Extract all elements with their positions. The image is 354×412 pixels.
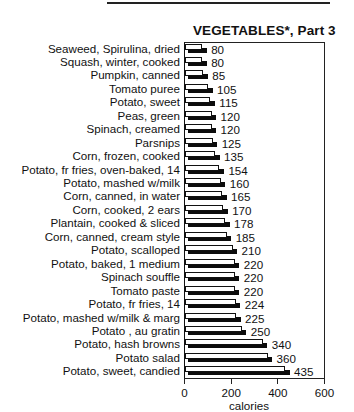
top-rule-divider <box>107 2 330 4</box>
bar <box>185 165 220 171</box>
category-label: Squash, winter, cooked <box>60 55 180 68</box>
value-label: 154 <box>228 164 247 177</box>
value-label: 210 <box>242 244 261 257</box>
category-label: Potato , au gratin <box>92 324 180 337</box>
x-tick <box>184 378 185 384</box>
value-label: 224 <box>245 298 264 311</box>
bar <box>185 111 212 117</box>
category-label: Parsnips <box>135 136 180 149</box>
category-label: Potato, sweet <box>110 95 180 108</box>
bar <box>185 245 233 251</box>
category-label: Potato, fr fries, oven-baked, 14 <box>21 163 180 176</box>
bar <box>185 218 226 224</box>
bar <box>185 191 223 197</box>
x-tick-label: 600 <box>315 386 334 399</box>
bar <box>185 232 227 238</box>
category-label: Potato, scalloped <box>91 243 180 256</box>
value-label: 178 <box>234 217 253 230</box>
category-label: Spinach, creamed <box>87 122 180 135</box>
category-label: Peas, green <box>117 109 180 122</box>
value-label: 125 <box>222 137 241 150</box>
x-tick <box>324 378 325 384</box>
value-label: 120 <box>221 110 240 123</box>
category-label: Potato, hash browns <box>74 337 180 350</box>
category-label: Tomato puree <box>109 82 180 95</box>
chart-title: VEGETABLES*, Part 3 <box>193 23 336 38</box>
x-axis-label: calories <box>229 399 269 412</box>
bar <box>185 84 209 90</box>
bar <box>185 151 216 157</box>
value-label: 185 <box>236 231 255 244</box>
category-label: Spinach souffle <box>101 270 180 283</box>
value-label: 340 <box>272 338 291 351</box>
value-label: 220 <box>244 258 263 271</box>
value-label: 165 <box>231 190 250 203</box>
bar <box>185 353 268 359</box>
bar <box>185 124 212 130</box>
category-label: Tomato paste <box>110 284 180 297</box>
x-tick <box>231 378 232 384</box>
category-label: Corn, canned, in water <box>63 189 180 202</box>
category-label: Corn, cooked, 2 ears <box>72 203 180 216</box>
category-label: Seaweed, Spirulina, dried <box>48 42 180 55</box>
bar <box>185 299 236 305</box>
x-tick <box>277 378 278 384</box>
bar <box>185 178 221 184</box>
category-label: Potato, baked, 1 medium <box>51 257 180 270</box>
value-label: 170 <box>232 204 251 217</box>
bar <box>185 70 204 76</box>
value-label: 435 <box>294 365 313 378</box>
category-label: Potato salad <box>116 351 180 364</box>
value-label: 160 <box>230 177 249 190</box>
category-label: Corn, canned, cream style <box>45 230 180 243</box>
bar <box>185 205 224 211</box>
bar <box>185 97 211 103</box>
bar <box>185 326 242 332</box>
bar <box>185 44 203 50</box>
value-label: 360 <box>277 352 296 365</box>
value-label: 80 <box>211 43 224 56</box>
category-label: Corn, frozen, cooked <box>72 149 180 162</box>
bar <box>185 138 213 144</box>
category-label: Potato, mashed w/milk <box>63 176 180 189</box>
category-label: Potato, sweet, candied <box>63 364 180 377</box>
value-label: 250 <box>251 325 270 338</box>
x-tick-label: 200 <box>221 386 240 399</box>
value-label: 220 <box>244 271 263 284</box>
bar <box>185 57 203 63</box>
bar <box>185 339 263 345</box>
value-label: 80 <box>211 56 224 69</box>
category-label: Potato, mashed w/milk & marg <box>23 311 180 324</box>
value-label: 120 <box>221 123 240 136</box>
bar <box>185 286 235 292</box>
bar <box>185 313 237 319</box>
x-tick-label: 400 <box>268 386 287 399</box>
value-label: 135 <box>224 150 243 163</box>
category-label: Potato, fr fries, 14 <box>88 297 180 310</box>
value-label: 220 <box>244 285 263 298</box>
bar <box>185 259 235 265</box>
value-label: 85 <box>212 69 225 82</box>
category-label: Pumpkin, canned <box>90 68 180 81</box>
category-label: Plantain, cooked & sliced <box>50 216 180 229</box>
x-tick-label: 0 <box>181 386 187 399</box>
value-label: 105 <box>217 83 236 96</box>
bar <box>185 272 235 278</box>
value-label: 115 <box>219 96 237 109</box>
value-label: 225 <box>245 312 264 325</box>
bar <box>185 366 286 372</box>
